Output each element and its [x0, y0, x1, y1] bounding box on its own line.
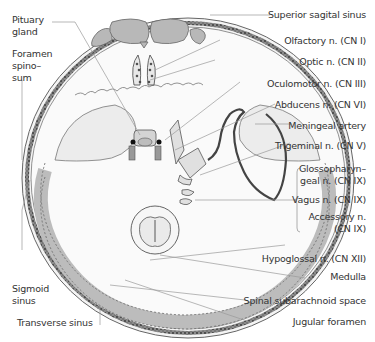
label-line: Accessory n.	[308, 211, 366, 223]
label-transverse-sinus: Transverse sinus	[17, 317, 93, 329]
label-trigeminal-nerve: Trigeminal n. (CN V)	[275, 140, 366, 152]
label-accessory-nerve: Accessory n. (CN IX)	[308, 211, 366, 235]
label-olfactory-nerve: Olfactory n. (CN I)	[284, 35, 366, 47]
label-line: geal n. (CN IX)	[299, 175, 366, 187]
label-line: Transverse sinus	[17, 317, 93, 329]
label-line: sum	[12, 72, 52, 84]
label-glossopharyngeal-nerve: Glossopharyn– geal n. (CN IX)	[299, 163, 366, 187]
label-medulla: Medulla	[330, 271, 366, 283]
label-line: Sigmoid	[12, 283, 49, 295]
label-pituitary-gland: Pituary gland	[12, 14, 44, 38]
label-line: Foramen	[12, 48, 52, 60]
label-jugular-foramen: Jugular foramen	[293, 316, 366, 328]
label-foramen-spinosum: Foramen spino– sum	[12, 48, 52, 84]
label-superior-sagital-sinus: Superior sagital sinus	[268, 9, 366, 21]
label-vagus-nerve: Vagus n. (CN IX)	[292, 194, 366, 206]
label-abducens-nerve: Abducens n. (CN VI)	[275, 99, 366, 111]
label-meningeal-artery: Meningeal artery	[288, 120, 366, 132]
label-line: gland	[12, 26, 44, 38]
label-line: sinus	[12, 295, 49, 307]
label-optic-nerve: Optic n. (CN II)	[299, 56, 366, 68]
label-oculomotor-nerve: Oculomotor n. (CN III)	[267, 78, 366, 90]
label-line: Glossopharyn–	[299, 163, 366, 175]
medulla-shape	[131, 206, 179, 254]
label-line: Pituary	[12, 14, 44, 26]
label-hypoglossal-nerve: Hypoglossal n. (CN XII)	[262, 253, 366, 265]
label-spinal-subarachnoid-space: Spinal subarachnoid space	[244, 295, 366, 307]
label-line: spino–	[12, 60, 52, 72]
label-sigmoid-sinus: Sigmoid sinus	[12, 283, 49, 307]
label-line: (CN IX)	[308, 223, 366, 235]
